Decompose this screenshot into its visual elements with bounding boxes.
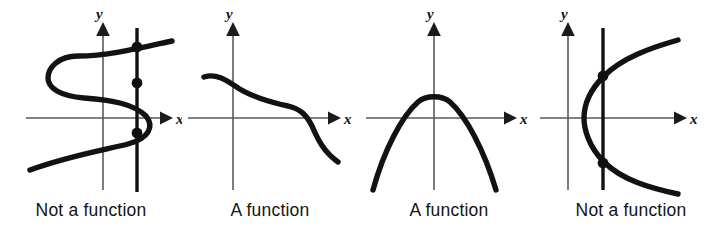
intersection-dot: [132, 78, 143, 89]
x-axis-label: x: [343, 111, 352, 127]
y-axis: [427, 22, 441, 190]
panel-2-graph: y x: [182, 0, 358, 200]
intersection-dot: [598, 71, 609, 82]
intersection-dot: [598, 158, 609, 169]
panel-1-graph: y x: [0, 0, 182, 200]
x-axis: [540, 112, 687, 125]
panel-3-graph: y x: [358, 0, 540, 200]
panel-a-function-2: y x A function: [358, 0, 540, 245]
intersection-dot: [132, 42, 143, 53]
panel-1-caption: Not a function: [0, 200, 182, 220]
x-axis: [188, 112, 341, 125]
panel-3-caption: A function: [358, 200, 540, 220]
y-axis-label: y: [94, 6, 103, 22]
x-axis: [366, 112, 517, 125]
intersection-dot: [132, 128, 143, 139]
relation-curve: [584, 40, 678, 194]
y-axis: [561, 22, 575, 190]
panel-4-graph: y x: [540, 0, 722, 200]
x-axis-label: x: [689, 111, 698, 127]
panel-not-a-function-1: y x Not a function: [0, 0, 182, 245]
x-axis-label: x: [175, 111, 182, 127]
y-axis-label: y: [559, 6, 568, 22]
y-axis: [226, 22, 240, 190]
panel-4-caption: Not a function: [540, 200, 722, 220]
relation-curve: [30, 41, 172, 170]
panel-not-a-function-2: y x Not a function: [540, 0, 722, 245]
x-axis-label: x: [519, 111, 528, 127]
y-axis-label: y: [224, 6, 233, 22]
y-axis: [96, 22, 110, 190]
panel-2-caption: A function: [182, 200, 358, 220]
relation-curve: [204, 76, 338, 162]
panel-a-function-1: y x A function: [182, 0, 358, 245]
y-axis-label: y: [425, 6, 434, 22]
vertical-line-test-figure: y x Not a function y x A function: [0, 0, 722, 245]
